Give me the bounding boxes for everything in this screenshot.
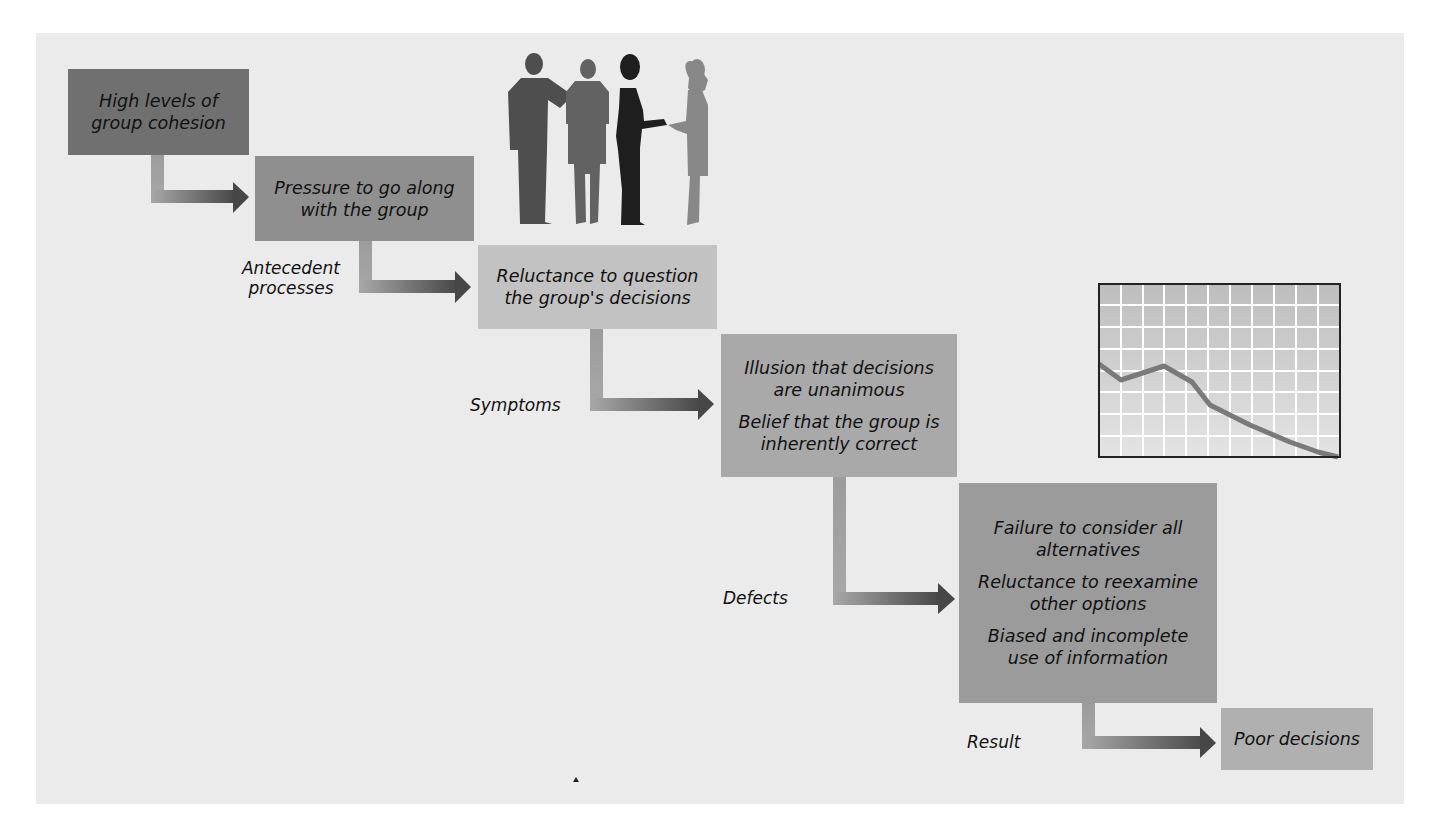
step-text: Illusion that decisions are unanimous: [734, 357, 944, 401]
step-text: High levels of group cohesion: [89, 90, 229, 134]
stage-label-symptoms: Symptoms: [470, 395, 561, 415]
step-box-defects: Failure to consider all alternatives Rel…: [959, 483, 1217, 703]
step-box-poor-decisions: Poor decisions: [1221, 708, 1373, 770]
step-box-group-cohesion: High levels of group cohesion: [68, 69, 249, 155]
stage-label-result: Result: [967, 732, 1020, 752]
step-text: Biased and incomplete use of information: [981, 625, 1196, 669]
step-text: Failure to consider all alternatives: [978, 517, 1198, 561]
arrow-icon: [833, 477, 955, 614]
declining-chart-icon: [1099, 284, 1340, 457]
arrow-icon: [590, 329, 714, 420]
arrow-icon: [151, 154, 249, 213]
arrow-icon: [1082, 703, 1216, 758]
step-box-symptoms: Illusion that decisions are unanimous Be…: [721, 334, 957, 477]
step-text: Poor decisions: [1234, 728, 1360, 750]
step-text: Pressure to go along with the group: [270, 177, 460, 221]
step-text: Reluctance to reexamine other options: [973, 571, 1203, 615]
stage-label-defects: Defects: [723, 588, 788, 608]
arrow-icon: [359, 241, 471, 303]
speck-mark: [573, 777, 579, 782]
people-silhouettes-icon: [508, 53, 708, 225]
step-box-reluctance: Reluctance to question the group's decis…: [478, 245, 717, 329]
step-box-pressure: Pressure to go along with the group: [255, 156, 474, 241]
step-text: Belief that the group is inherently corr…: [734, 411, 944, 455]
stage-label-antecedent: Antecedent processes: [226, 258, 356, 298]
step-text: Reluctance to question the group's decis…: [490, 265, 705, 309]
